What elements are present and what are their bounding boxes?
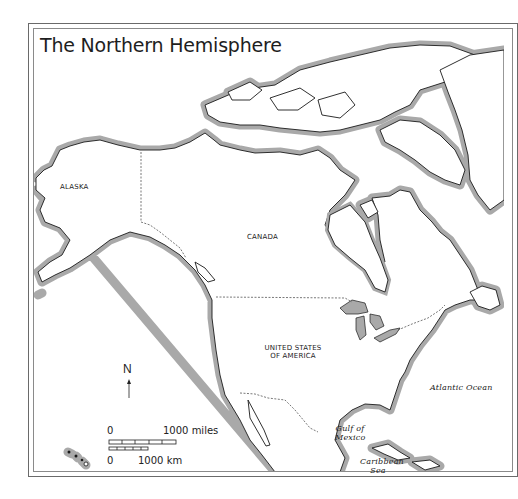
km-scale-bar (109, 447, 148, 450)
label-caribbean-line2: Sea (360, 466, 396, 475)
label-usa: UNITED STATES OF AMERICA (262, 344, 324, 360)
label-alaska: ALASKA (60, 183, 89, 191)
label-caribbean-line1: Caribbean (360, 457, 396, 466)
label-gulf-line2: Mexico (335, 433, 365, 442)
label-canada: CANADA (247, 233, 278, 241)
label-usa-line1: UNITED STATES (262, 344, 324, 352)
map-title: The Northern Hemisphere (40, 34, 282, 56)
north-label: N (123, 362, 132, 376)
scale-km-end: 1000 km (138, 455, 182, 466)
scale-bar (109, 440, 176, 450)
label-caribbean-sea: Caribbean Sea (360, 457, 396, 475)
scale-miles-end: 1000 miles (163, 425, 218, 436)
label-gulf-of-mexico: Gulf of Mexico (335, 424, 365, 442)
label-atlantic-ocean: Atlantic Ocean (430, 383, 493, 392)
label-usa-line2: OF AMERICA (262, 352, 324, 360)
scale-km-start: 0 (107, 455, 113, 466)
label-gulf-line1: Gulf of (335, 424, 365, 433)
scale-miles-start: 0 (107, 425, 113, 436)
miles-scale-bar (109, 440, 176, 444)
north-arrow-icon (127, 379, 131, 398)
coastline (36, 45, 504, 472)
